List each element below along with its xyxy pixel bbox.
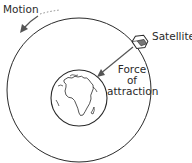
motion-label: Motion xyxy=(3,4,39,15)
diagram-canvas xyxy=(0,0,192,163)
satellite-label: Satellite xyxy=(152,31,192,42)
orbit-diagram: Motion Satellite Force of attraction xyxy=(0,0,192,163)
earth-icon xyxy=(51,70,107,126)
satellite-icon xyxy=(131,33,150,51)
force-label-line3: attraction xyxy=(107,86,158,97)
